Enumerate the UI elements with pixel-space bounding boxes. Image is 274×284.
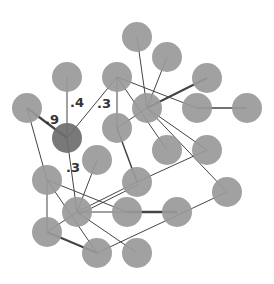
graph-node[interactable] (182, 93, 212, 123)
graph-node[interactable] (122, 238, 152, 268)
edge-weight-label: .9 (45, 112, 59, 127)
network-graph: .9.4.3.3 (0, 0, 274, 284)
graph-node[interactable] (102, 62, 132, 92)
graph-node[interactable] (232, 93, 262, 123)
graph-node[interactable] (192, 135, 222, 165)
graph-node[interactable] (32, 217, 62, 247)
graph-node[interactable] (162, 197, 192, 227)
graph-node[interactable] (152, 42, 182, 72)
graph-node[interactable] (132, 93, 162, 123)
nodes-layer (12, 22, 262, 268)
graph-node[interactable] (12, 93, 42, 123)
graph-node[interactable] (192, 63, 222, 93)
graph-node[interactable] (32, 165, 62, 195)
graph-node[interactable] (52, 62, 82, 92)
graph-node[interactable] (102, 113, 132, 143)
graph-node[interactable] (82, 238, 112, 268)
graph-node[interactable] (122, 167, 152, 197)
graph-node[interactable] (62, 197, 92, 227)
graph-node[interactable] (122, 22, 152, 52)
graph-node[interactable] (212, 177, 242, 207)
edge-weight-label: .3 (97, 96, 111, 111)
graph-node[interactable] (112, 197, 142, 227)
graph-node-selected[interactable] (52, 123, 82, 153)
graph-node[interactable] (82, 145, 112, 175)
edge-weight-label: .3 (66, 160, 80, 175)
edge-weight-label: .4 (70, 95, 84, 110)
graph-node[interactable] (152, 135, 182, 165)
